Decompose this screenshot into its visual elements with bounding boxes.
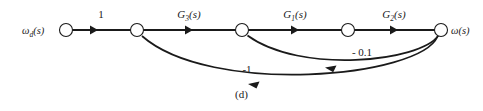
gain-label-g3: G3(s) (177, 8, 201, 23)
gain-label-unity: 1 (98, 8, 104, 20)
arrowhead-branch-n2-n3 (185, 26, 193, 35)
arrowhead-branch-n4-n5 (390, 26, 398, 35)
intermediate-node-4 (342, 24, 355, 37)
feedback-branch-minus-0-1 (248, 36, 439, 73)
summing-node-2 (131, 24, 144, 37)
output-node (435, 24, 448, 37)
gain-label-g2: G2(s) (382, 8, 406, 23)
gain-label-minus-0-1: - 0.1 (352, 46, 372, 58)
gain-label-g1: G1(s) (283, 8, 307, 23)
output-node-label: ω(s) (451, 25, 470, 37)
signal-flow-graph-figure: ωd(s) ω(s) 1 G3(s) G1(s) G2(s) - 0.1 -1 … (0, 0, 483, 111)
arrowhead-feedback-minus-0-1 (325, 66, 337, 73)
input-node (60, 24, 73, 37)
forward-gain-labels: 1 G3(s) G1(s) G2(s) (98, 8, 406, 23)
arrowhead-branch-n1-n2 (90, 26, 98, 35)
feedback-branch-minus-1 (142, 36, 438, 89)
summing-node-3 (236, 24, 249, 37)
figure-caption: (d) (0, 88, 483, 100)
input-node-label: ωd(s) (22, 25, 45, 39)
gain-label-minus-1: -1 (242, 63, 251, 75)
arrowhead-branch-n3-n4 (291, 26, 299, 35)
